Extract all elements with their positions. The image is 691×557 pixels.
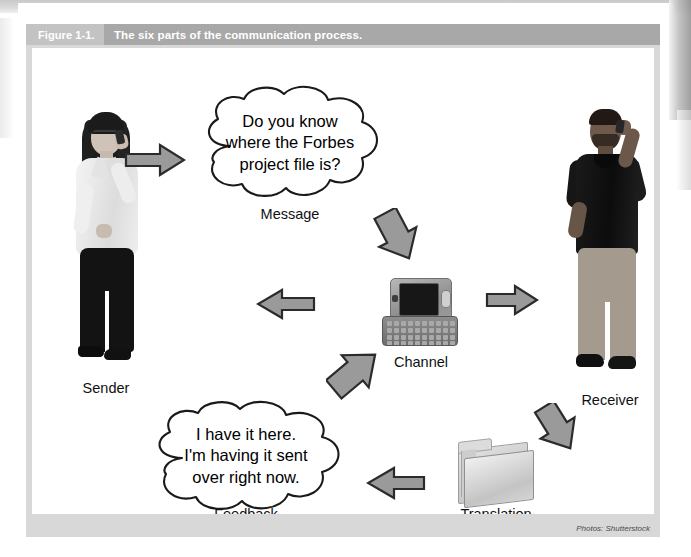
label-feedback: Feedback <box>186 506 306 514</box>
phone-navigation-pad <box>441 290 451 308</box>
feedback-line-3: over right now. <box>192 467 299 488</box>
keyboard-row <box>387 341 455 346</box>
shoe-left <box>576 354 604 367</box>
feedback-speech-cloud: I have it here. I'm having it sent over … <box>142 400 350 512</box>
arrow-channel-to-sender <box>256 288 316 320</box>
hand-lowered <box>96 224 112 238</box>
figure-container: Figure 1-1. The six parts of the communi… <box>26 24 660 537</box>
figure-canvas: Sender Do you know where the Forbes proj… <box>32 48 654 514</box>
message-line-3: project file is? <box>240 154 341 175</box>
page-sheet-edge <box>18 3 673 17</box>
keyboard-row <box>387 335 455 340</box>
message-line-1: Do you know <box>242 111 337 132</box>
page-right-edge-shadow <box>669 0 691 120</box>
keyboard-row <box>387 321 455 326</box>
arrow-feedback-to-channel <box>326 346 388 404</box>
figure-caption-title: The six parts of the communication proce… <box>104 24 660 45</box>
page-left-edge-shadow <box>0 18 12 138</box>
phone-slide-out-keyboard <box>382 316 458 346</box>
receiver-photo <box>556 106 654 388</box>
label-sender: Sender <box>60 380 152 396</box>
page-right-edge-shadow-secondary <box>677 110 691 190</box>
leg-separation <box>605 302 610 360</box>
photo-credit: Photos: Shutterstock <box>576 524 650 533</box>
feedback-line-2: I'm having it sent <box>184 445 307 466</box>
shoe-left <box>78 346 104 357</box>
channel-photo-mobile-phone <box>382 278 460 350</box>
shoe-right <box>608 356 636 369</box>
message-speech-cloud: Do you know where the Forbes project fil… <box>192 84 388 202</box>
arrow-message-to-channel <box>363 208 421 270</box>
shoe-right <box>104 349 131 360</box>
feedback-line-1: I have it here. <box>196 424 296 445</box>
scanned-page: Figure 1-1. The six parts of the communi… <box>0 0 691 557</box>
translation-photo-file-folder <box>452 438 538 506</box>
figure-caption-bar: Figure 1-1. The six parts of the communi… <box>26 24 660 45</box>
arrow-sender-to-message <box>124 143 186 177</box>
phone-speaker <box>392 295 398 302</box>
arrow-channel-to-receiver <box>485 284 539 316</box>
leg-separation <box>105 291 109 353</box>
folder-front-panel <box>464 450 534 509</box>
keyboard-row <box>387 328 455 333</box>
message-line-2: where the Forbes <box>226 132 354 153</box>
phone-screen <box>399 283 439 316</box>
label-message: Message <box>230 206 350 222</box>
label-translation: Translation <box>436 506 556 514</box>
arrow-translation-to-feedback <box>366 466 426 500</box>
figure-number-label: Figure 1-1. <box>26 24 104 45</box>
